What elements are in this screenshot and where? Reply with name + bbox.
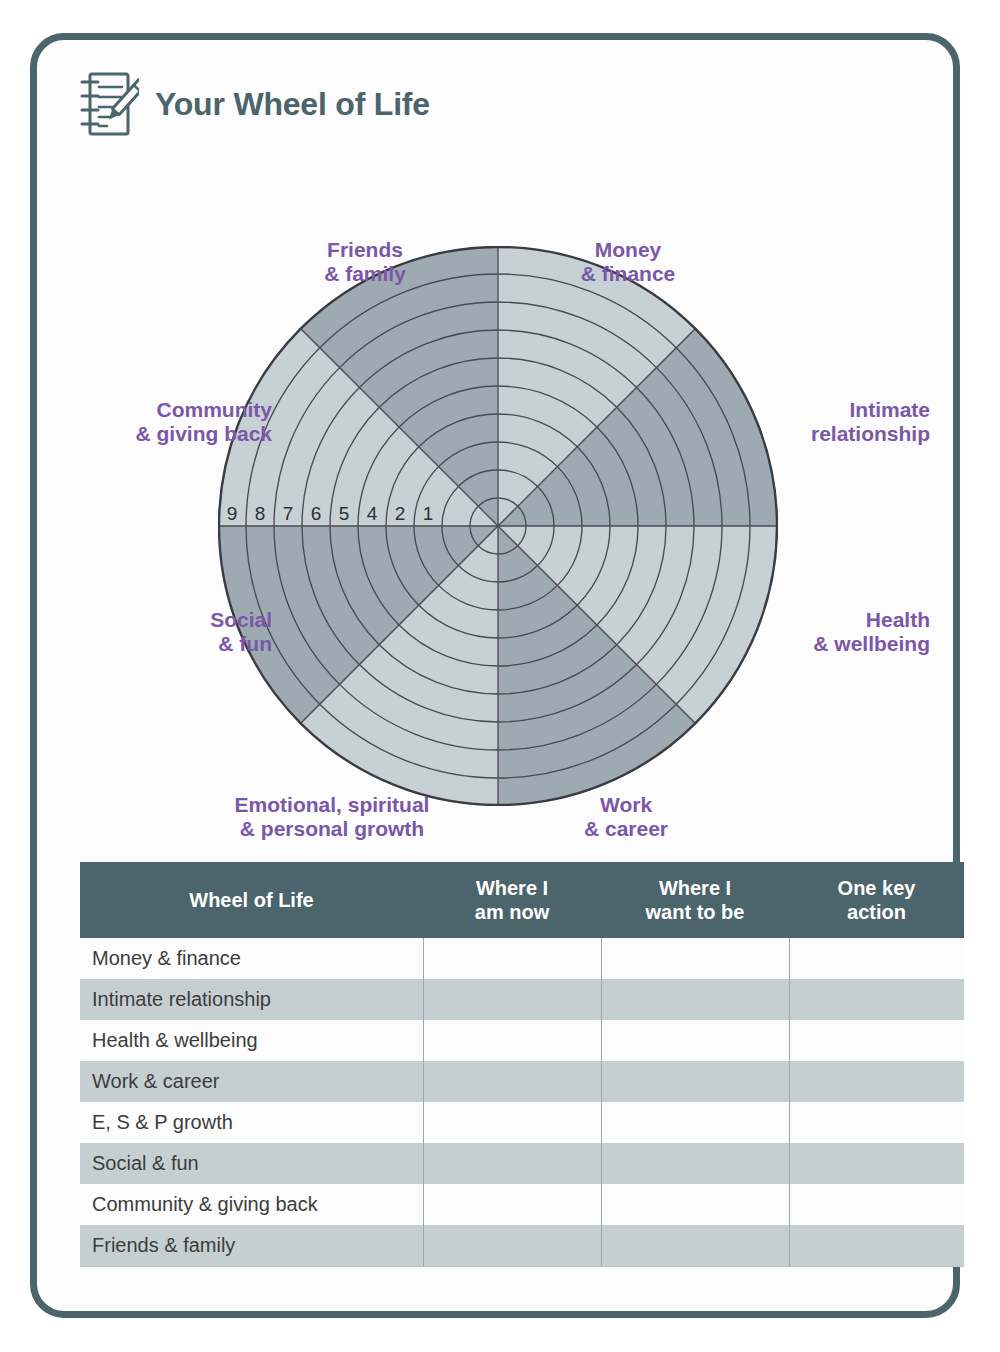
column-header-one-key-action: One key action xyxy=(789,862,964,938)
cell-one-key-action[interactable] xyxy=(789,1102,964,1143)
worksheet-card: Your Wheel of Life xyxy=(30,33,960,1318)
wheel-label-work-career: Work & career xyxy=(531,793,721,842)
cell-where-i-am-now[interactable] xyxy=(423,1102,601,1143)
cell-one-key-action[interactable] xyxy=(789,938,964,979)
row-category-label: Health & wellbeing xyxy=(80,1020,423,1061)
cell-where-i-am-now[interactable] xyxy=(423,1184,601,1225)
cell-where-i-want-to-be[interactable] xyxy=(601,1225,789,1267)
wheel-label-health-wellbeing: Health & wellbeing xyxy=(617,608,930,657)
cell-one-key-action[interactable] xyxy=(789,1143,964,1184)
cell-one-key-action[interactable] xyxy=(789,1020,964,1061)
row-category-label: Work & career xyxy=(80,1061,423,1102)
column-header-where-i-want-to-be: Where I want to be xyxy=(601,862,789,938)
wheel-scale-numbers: 10 9 8 7 6 5 4 2 1 xyxy=(218,246,778,806)
scale-number: 2 xyxy=(395,503,406,524)
wheel-label-friends-family: Friends & family xyxy=(270,238,460,287)
wheel-label-intimate-relationship: Intimate relationship xyxy=(617,398,930,447)
table-row: Health & wellbeing xyxy=(80,1020,964,1061)
wheel-of-life-table: Wheel of Life Where I am now Where I wan… xyxy=(80,862,964,1267)
cell-where-i-am-now[interactable] xyxy=(423,1225,601,1267)
scale-number: 4 xyxy=(367,503,378,524)
cell-where-i-want-to-be[interactable] xyxy=(601,938,789,979)
wheel-of-life-diagram: 10 9 8 7 6 5 4 2 1 Friends & family Mone… xyxy=(37,190,953,890)
table-row: E, S & P growth xyxy=(80,1102,964,1143)
wheel-label-money-finance: Money & finance xyxy=(533,238,723,287)
cell-where-i-want-to-be[interactable] xyxy=(601,1061,789,1102)
cell-one-key-action[interactable] xyxy=(789,1061,964,1102)
table-row: Community & giving back xyxy=(80,1184,964,1225)
scale-number: 1 xyxy=(423,503,434,524)
table-row: Friends & family xyxy=(80,1225,964,1267)
cell-where-i-am-now[interactable] xyxy=(423,938,601,979)
header: Your Wheel of Life xyxy=(77,68,430,140)
row-category-label: Social & fun xyxy=(80,1143,423,1184)
table-row: Intimate relationship xyxy=(80,979,964,1020)
scale-number: 6 xyxy=(311,503,322,524)
row-category-label: E, S & P growth xyxy=(80,1102,423,1143)
cell-where-i-want-to-be[interactable] xyxy=(601,1020,789,1061)
scale-number: 7 xyxy=(283,503,294,524)
cell-where-i-want-to-be[interactable] xyxy=(601,1102,789,1143)
cell-where-i-am-now[interactable] xyxy=(423,979,601,1020)
cell-where-i-am-now[interactable] xyxy=(423,1020,601,1061)
table-row: Money & finance xyxy=(80,938,964,979)
scale-number: 8 xyxy=(255,503,266,524)
wheel-label-community-giving-back: Community & giving back xyxy=(57,398,272,447)
cell-one-key-action[interactable] xyxy=(789,1184,964,1225)
table-body: Money & finance Intimate relationship He… xyxy=(80,938,964,1267)
row-category-label: Community & giving back xyxy=(80,1184,423,1225)
row-category-label: Money & finance xyxy=(80,938,423,979)
row-category-label: Intimate relationship xyxy=(80,979,423,1020)
page-title: Your Wheel of Life xyxy=(155,86,430,123)
column-header-category: Wheel of Life xyxy=(80,862,423,938)
notepad-pencil-icon xyxy=(77,68,139,140)
wheel-label-emotional-growth: Emotional, spiritual & personal growth xyxy=(167,793,497,842)
cell-one-key-action[interactable] xyxy=(789,979,964,1020)
scale-number: 5 xyxy=(339,503,350,524)
cell-one-key-action[interactable] xyxy=(789,1225,964,1267)
cell-where-i-am-now[interactable] xyxy=(423,1143,601,1184)
cell-where-i-am-now[interactable] xyxy=(423,1061,601,1102)
cell-where-i-want-to-be[interactable] xyxy=(601,1143,789,1184)
scale-number: 9 xyxy=(227,503,238,524)
table-header-row: Wheel of Life Where I am now Where I wan… xyxy=(80,862,964,938)
table-row: Social & fun xyxy=(80,1143,964,1184)
table-row: Work & career xyxy=(80,1061,964,1102)
cell-where-i-want-to-be[interactable] xyxy=(601,1184,789,1225)
wheel-label-social-fun: Social & fun xyxy=(57,608,272,657)
column-header-where-i-am-now: Where I am now xyxy=(423,862,601,938)
row-category-label: Friends & family xyxy=(80,1225,423,1267)
cell-where-i-want-to-be[interactable] xyxy=(601,979,789,1020)
